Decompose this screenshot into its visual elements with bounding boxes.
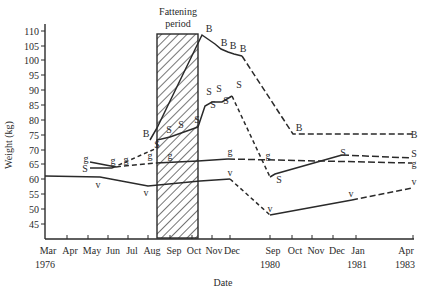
svg-text:g: g xyxy=(412,158,417,169)
svg-text:1983: 1983 xyxy=(395,259,415,270)
svg-text:S: S xyxy=(411,148,417,159)
svg-text:v: v xyxy=(228,167,233,178)
svg-text:B: B xyxy=(296,122,303,133)
axes xyxy=(45,24,414,239)
svg-text:B: B xyxy=(411,129,418,140)
svg-text:55: 55 xyxy=(29,189,39,200)
svg-text:Dec: Dec xyxy=(329,245,346,256)
series-g xyxy=(90,159,412,167)
svg-text:100: 100 xyxy=(24,55,39,66)
series-v-markers: v v v v v v xyxy=(96,167,417,214)
svg-text:70: 70 xyxy=(29,145,39,156)
annotation-period: period xyxy=(165,18,191,29)
y-axis-label: Weight (kg) xyxy=(3,121,15,169)
svg-text:Sep: Sep xyxy=(167,245,182,256)
svg-text:S: S xyxy=(206,86,212,97)
svg-text:65: 65 xyxy=(29,159,39,170)
svg-text:60: 60 xyxy=(29,174,39,185)
svg-text:Nov: Nov xyxy=(307,245,324,256)
svg-text:B: B xyxy=(240,43,247,54)
svg-text:Dec: Dec xyxy=(224,245,241,256)
svg-text:B: B xyxy=(143,128,150,139)
svg-text:B: B xyxy=(206,23,213,34)
chart-figure: Fattening period 110 105 100 95 90 85 80… xyxy=(0,0,423,298)
svg-text:50: 50 xyxy=(29,204,39,215)
series-s-markers: S S S S S S S S S S S S S xyxy=(82,79,417,185)
svg-text:S: S xyxy=(194,114,200,125)
svg-text:90: 90 xyxy=(29,85,39,96)
svg-text:Jan: Jan xyxy=(351,245,364,256)
svg-text:S: S xyxy=(236,79,242,90)
svg-text:80: 80 xyxy=(29,115,39,126)
fattening-period-bar xyxy=(157,34,198,238)
svg-text:May: May xyxy=(83,245,101,256)
svg-text:v: v xyxy=(268,203,273,214)
x-axis-year-labels: 1976 1980 1981 1983 xyxy=(35,259,415,270)
svg-text:S: S xyxy=(210,99,216,110)
svg-text:Aug: Aug xyxy=(143,245,160,256)
svg-text:Oct: Oct xyxy=(187,245,202,256)
svg-text:g: g xyxy=(266,150,271,161)
annotation-fattening: Fattening xyxy=(159,6,197,17)
svg-text:Jun: Jun xyxy=(106,245,120,256)
svg-text:v: v xyxy=(349,188,354,199)
svg-text:1976: 1976 xyxy=(35,259,55,270)
series-s xyxy=(90,96,412,177)
svg-text:S: S xyxy=(276,174,282,185)
svg-text:v: v xyxy=(144,187,149,198)
svg-text:Nov: Nov xyxy=(205,245,222,256)
y-axis-tick-labels: 110 105 100 95 90 85 80 75 70 65 60 55 5… xyxy=(24,26,39,230)
x-axis-label: Date xyxy=(214,277,233,288)
svg-text:g: g xyxy=(124,154,129,165)
svg-text:S: S xyxy=(82,163,88,174)
svg-text:Mar: Mar xyxy=(40,245,57,256)
svg-text:Apr: Apr xyxy=(62,245,78,256)
svg-text:B: B xyxy=(230,40,237,51)
svg-text:v: v xyxy=(96,179,101,190)
svg-text:Jul: Jul xyxy=(126,245,138,256)
svg-text:1981: 1981 xyxy=(347,259,367,270)
svg-text:Apr: Apr xyxy=(398,245,414,256)
svg-text:S: S xyxy=(178,119,184,130)
svg-text:g: g xyxy=(168,150,173,161)
svg-text:B: B xyxy=(221,37,228,48)
svg-text:1980: 1980 xyxy=(260,259,280,270)
x-axis-tick-labels: Mar Apr May Jun Jul Aug Sep Oct Nov Dec … xyxy=(40,245,415,256)
svg-text:g: g xyxy=(148,150,153,161)
weight-chart: Fattening period 110 105 100 95 90 85 80… xyxy=(0,0,423,298)
svg-text:S: S xyxy=(166,124,172,135)
svg-text:S: S xyxy=(223,95,229,106)
svg-text:S: S xyxy=(340,147,346,158)
svg-text:S: S xyxy=(154,139,160,150)
svg-text:v: v xyxy=(412,176,417,187)
svg-text:45: 45 xyxy=(29,219,39,230)
svg-text:S: S xyxy=(216,83,222,94)
svg-text:95: 95 xyxy=(29,70,39,81)
svg-text:75: 75 xyxy=(29,130,39,141)
svg-text:Oct: Oct xyxy=(288,245,303,256)
svg-text:110: 110 xyxy=(24,26,39,37)
svg-text:g: g xyxy=(111,155,116,166)
svg-text:85: 85 xyxy=(29,100,39,111)
svg-text:g: g xyxy=(228,146,233,157)
svg-text:Sep: Sep xyxy=(266,245,281,256)
svg-text:105: 105 xyxy=(24,41,39,52)
